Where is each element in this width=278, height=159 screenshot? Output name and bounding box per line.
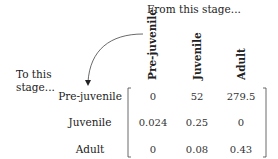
matrix-cell: 0.25: [175, 117, 219, 128]
to-stage-line2: stage...: [16, 81, 55, 94]
to-stage-line1: To this: [16, 68, 55, 81]
matrix-cell: 52: [175, 91, 219, 102]
matrix-cell: 0.024: [131, 117, 175, 128]
column-header-pre-juvenile: Pre-juvenile: [146, 9, 158, 80]
matrix-cell: 0: [131, 144, 175, 155]
column-header-juvenile: Juvenile: [191, 32, 203, 80]
matrix-cell: 0: [131, 91, 175, 102]
to-stage-label: To this stage...: [16, 68, 55, 94]
matrix-cell: 0: [219, 117, 263, 128]
curved-arrow: [88, 34, 143, 82]
from-stage-label: From this stage...: [147, 3, 241, 15]
row-header-adult: Adult: [50, 143, 130, 155]
arrow-head-icon: [85, 80, 91, 86]
row-header-juvenile: Juvenile: [50, 116, 130, 128]
matrix-cell: 0.43: [219, 144, 263, 155]
row-header-pre-juvenile: Pre-juvenile: [50, 90, 130, 102]
right-bracket: [263, 88, 266, 157]
matrix-cell: 0.08: [175, 144, 219, 155]
matrix-cell: 279.5: [219, 91, 263, 102]
column-header-adult: Adult: [235, 48, 247, 80]
